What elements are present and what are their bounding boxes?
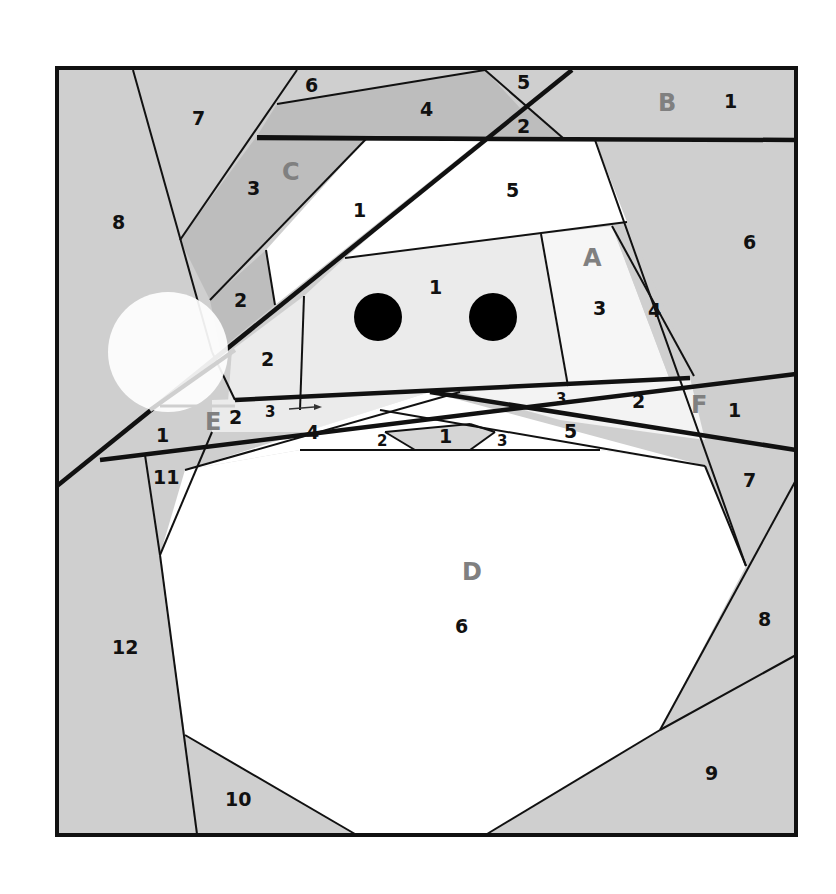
section-label-c: C: [282, 158, 300, 186]
piece-num-c1: 1: [353, 199, 366, 221]
piece-num-e2: 2: [229, 406, 242, 428]
piece-num-b7: 7: [192, 107, 205, 129]
highlight-circle: [108, 292, 228, 412]
left-eye: [354, 293, 402, 341]
pattern-svg: B C A E F D 6 7 4 5 2 1 8 3 1 2 5 1 3 4 …: [0, 0, 836, 894]
section-label-f: F: [691, 391, 707, 419]
piece-num-a3: 3: [593, 297, 606, 319]
section-label-e: E: [205, 408, 221, 436]
piece-num-a5: 5: [506, 179, 519, 201]
piece-num-c2: 2: [234, 289, 247, 311]
piece-num-f1: 1: [728, 399, 741, 421]
piece-num-d7: 7: [743, 469, 756, 491]
piece-num-d1: 1: [439, 425, 452, 447]
section-label-d: D: [462, 558, 482, 586]
piece-num-a1: 1: [429, 276, 442, 298]
piece-num-b4: 4: [420, 98, 433, 120]
piece-num-e1: 1: [156, 424, 169, 446]
piece-num-b8: 8: [112, 211, 125, 233]
piece-num-d5: 5: [564, 420, 577, 442]
piece-num-b5: 5: [517, 71, 530, 93]
piece-num-d3: 3: [497, 432, 507, 450]
piece-num-a2: 2: [261, 348, 274, 370]
section-label-a: A: [583, 244, 602, 272]
piece-num-b1: 1: [724, 90, 737, 112]
piece-num-d9: 9: [705, 762, 718, 784]
piece-num-d6: 6: [455, 615, 468, 637]
piece-num-d2: 2: [377, 432, 387, 450]
piece-num-d4: 4: [306, 421, 319, 443]
piece-num-b2: 2: [517, 115, 530, 137]
pattern-diagram: B C A E F D 6 7 4 5 2 1 8 3 1 2 5 1 3 4 …: [0, 0, 836, 894]
section-label-b: B: [658, 89, 676, 117]
piece-num-a2-lower: 2: [632, 390, 645, 412]
piece-num-d11: 11: [153, 466, 179, 488]
piece-num-b6: 6: [305, 74, 318, 96]
piece-num-e3: 3: [265, 403, 275, 421]
piece-num-d10: 10: [225, 788, 251, 810]
right-eye: [469, 293, 517, 341]
piece-num-d12: 12: [112, 636, 138, 658]
piece-num-a3-lower: 3: [556, 390, 566, 408]
piece-num-a4: 4: [648, 299, 661, 321]
piece-num-d8: 8: [758, 608, 771, 630]
piece-num-a6: 6: [743, 231, 756, 253]
piece-num-c3: 3: [247, 177, 260, 199]
